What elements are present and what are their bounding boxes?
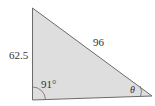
side-label-96: 96 [93,36,105,48]
side-label-62-5: 62.5 [9,49,29,61]
angle-label-theta: θ [130,84,135,95]
angle-label-91: 91° [41,78,56,90]
triangle-diagram: 62.5 96 91° θ [0,0,155,106]
